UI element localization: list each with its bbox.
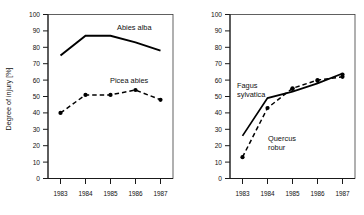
series-markers-picea-abies (58, 88, 162, 115)
y-axis-title: Degree of injury [%] (4, 67, 13, 130)
y-tick-label: 50 (215, 93, 223, 100)
series-label-picea-abies: Picea abies (110, 76, 149, 85)
series-label-quercus-robur-line2: robur (268, 143, 286, 152)
x-tick-marks (61, 179, 161, 185)
y-tick-label: 40 (215, 109, 223, 116)
y-tick-label: 20 (33, 142, 41, 149)
series-label-quercus-robur-line1: Quercus (268, 134, 296, 143)
right-panel-svg: 100 90 80 70 60 50 40 30 20 10 0 (182, 0, 364, 215)
x-tick-label: 1984 (78, 190, 93, 197)
series-label-abies-alba: Abies alba (117, 23, 152, 32)
series-line-abies-alba (61, 36, 161, 56)
chart-panel-left: Degree of injury [%] 100 90 80 70 60 50 … (0, 0, 182, 215)
x-tick-label: 1986 (310, 190, 325, 197)
y-tick-label: 0 (218, 175, 222, 182)
y-tick-label: 30 (33, 126, 41, 133)
y-tick-label: 10 (215, 159, 223, 166)
series-label-fagus-sylvatica-line1: Fagus (237, 81, 258, 90)
y-tick-label: 0 (36, 175, 40, 182)
x-tick-label: 1984 (260, 190, 275, 197)
x-tick-label: 1983 (53, 190, 68, 197)
y-tick-label: 60 (33, 77, 41, 84)
chart-panel-right: 100 90 80 70 60 50 40 30 20 10 0 (182, 0, 364, 215)
y-tick-label: 50 (33, 93, 41, 100)
y-tick-marks (43, 15, 48, 179)
y-tick-label: 60 (215, 77, 223, 84)
figure-root: Degree of injury [%] 100 90 80 70 60 50 … (0, 0, 364, 215)
x-tick-label: 1985 (103, 190, 118, 197)
x-tick-label: 1985 (285, 190, 300, 197)
y-tick-label: 80 (215, 44, 223, 51)
x-tick-label: 1986 (128, 190, 143, 197)
x-tick-marks (243, 179, 343, 185)
y-tick-label: 40 (33, 109, 41, 116)
y-tick-label: 20 (215, 142, 223, 149)
y-tick-marks (225, 15, 230, 179)
y-tick-label: 30 (215, 126, 223, 133)
y-tick-label: 90 (215, 27, 223, 34)
y-tick-label: 90 (33, 27, 41, 34)
y-tick-label: 80 (33, 44, 41, 51)
y-tick-label: 100 (211, 11, 222, 18)
y-tick-label: 100 (29, 11, 40, 18)
x-tick-label: 1983 (235, 190, 250, 197)
y-tick-label: 10 (33, 159, 41, 166)
y-tick-label: 70 (33, 60, 41, 67)
y-tick-label: 70 (215, 60, 223, 67)
x-tick-label: 1987 (153, 190, 168, 197)
left-panel-svg: Degree of injury [%] 100 90 80 70 60 50 … (0, 0, 182, 215)
x-tick-label: 1987 (335, 190, 350, 197)
series-label-fagus-sylvatica-line2: sylvatica (237, 90, 266, 99)
